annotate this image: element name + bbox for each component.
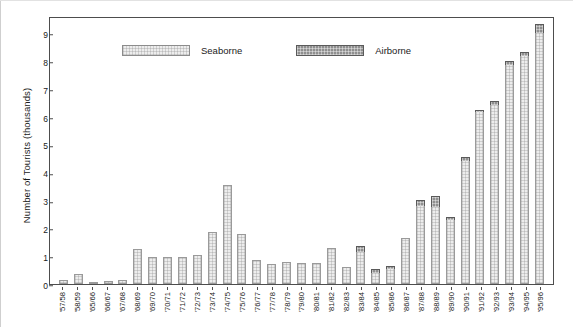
seaborne-segment bbox=[312, 263, 321, 284]
bar-slot bbox=[309, 18, 324, 284]
seaborne-segment bbox=[386, 269, 395, 284]
bar--69-70[interactable] bbox=[148, 257, 157, 284]
airborne-segment bbox=[535, 24, 544, 32]
bar--80-81[interactable] bbox=[312, 263, 321, 284]
bar-slot bbox=[175, 18, 190, 284]
y-tick-4: 4 bbox=[24, 170, 48, 179]
x-tick-mark bbox=[511, 287, 512, 290]
x-tick-mark bbox=[436, 287, 437, 290]
seaborne-segment bbox=[297, 263, 306, 284]
x-tick-label: '72/73 bbox=[192, 292, 201, 312]
bar--89-90[interactable] bbox=[446, 217, 455, 284]
bar--57-58[interactable] bbox=[59, 280, 68, 284]
bar--76-77[interactable] bbox=[252, 260, 261, 284]
bar-slot bbox=[517, 18, 532, 284]
x-tick-label: '88/89 bbox=[431, 292, 440, 312]
x-label-slot: '95/96 bbox=[533, 287, 548, 327]
bar--88-89[interactable] bbox=[431, 196, 440, 284]
bar--78-79[interactable] bbox=[282, 262, 291, 284]
bar--79-80[interactable] bbox=[297, 263, 306, 284]
bar--75-76[interactable] bbox=[237, 234, 246, 284]
bar--84-85[interactable] bbox=[371, 269, 380, 284]
x-tick-label: '79/80 bbox=[297, 292, 306, 312]
x-tick-mark bbox=[540, 287, 541, 290]
x-label-slot: '58/59 bbox=[70, 287, 85, 327]
bar-slot bbox=[220, 18, 235, 284]
bar-slot bbox=[56, 18, 71, 284]
x-tick-label: '69/70 bbox=[148, 292, 157, 312]
bar--70-71[interactable] bbox=[163, 257, 172, 284]
seaborne-segment bbox=[193, 255, 202, 284]
bar--95-96[interactable] bbox=[535, 24, 544, 284]
bar--71-72[interactable] bbox=[178, 257, 187, 284]
x-tick-label: '66/67 bbox=[103, 292, 112, 312]
x-tick-mark bbox=[167, 287, 168, 290]
bar--82-83[interactable] bbox=[342, 267, 351, 284]
bar--67-68[interactable] bbox=[118, 280, 127, 284]
bar--90-91[interactable] bbox=[461, 157, 470, 284]
bar--93-94[interactable] bbox=[505, 61, 514, 284]
x-label-slot: '74/75 bbox=[219, 287, 234, 327]
bar-slot bbox=[428, 18, 443, 284]
bar--68-69[interactable] bbox=[133, 249, 142, 284]
seaborne-segment bbox=[163, 257, 172, 284]
bar--66-67[interactable] bbox=[104, 281, 113, 284]
bar--77-78[interactable] bbox=[267, 264, 276, 284]
x-tick-label: '87/88 bbox=[416, 292, 425, 312]
x-label-slot: '79/80 bbox=[294, 287, 309, 327]
bar-slot bbox=[116, 18, 131, 284]
bar--85-86[interactable] bbox=[386, 266, 395, 284]
bar-slot bbox=[249, 18, 264, 284]
x-tick-label: '74/75 bbox=[222, 292, 231, 312]
seaborne-segment bbox=[223, 185, 232, 284]
bar--65-66[interactable] bbox=[89, 282, 98, 284]
bar-slot bbox=[235, 18, 250, 284]
x-label-slot: '69/70 bbox=[145, 287, 160, 327]
bar--74-75[interactable] bbox=[223, 185, 232, 284]
seaborne-segment bbox=[59, 280, 68, 284]
x-label-slot: '88/89 bbox=[428, 287, 443, 327]
seaborne-segment bbox=[475, 112, 484, 284]
x-tick-mark bbox=[301, 287, 302, 290]
bar--58-59[interactable] bbox=[74, 274, 83, 284]
x-tick-mark bbox=[92, 287, 93, 290]
seaborne-segment bbox=[104, 281, 113, 284]
bar--83-84[interactable] bbox=[356, 246, 365, 284]
x-label-slot: '84/85 bbox=[369, 287, 384, 327]
x-tick-mark bbox=[152, 287, 153, 290]
bar--86-87[interactable] bbox=[401, 238, 410, 284]
x-tick-mark bbox=[481, 287, 482, 290]
bar--94-95[interactable] bbox=[520, 52, 529, 284]
x-tick-label: '95/96 bbox=[536, 292, 545, 312]
seaborne-segment bbox=[461, 161, 470, 284]
x-tick-mark bbox=[451, 287, 452, 290]
x-label-slot: '92/93 bbox=[488, 287, 503, 327]
seaborne-segment bbox=[535, 33, 544, 284]
bar--91-92[interactable] bbox=[475, 110, 484, 284]
x-tick-mark bbox=[331, 287, 332, 290]
x-tick-label: '86/87 bbox=[402, 292, 411, 312]
seaborne-segment bbox=[505, 65, 514, 284]
bar--81-82[interactable] bbox=[327, 248, 336, 284]
bar-slot bbox=[383, 18, 398, 284]
seaborne-segment bbox=[148, 257, 157, 284]
seaborne-segment bbox=[416, 206, 425, 284]
x-tick-label: '85/86 bbox=[387, 292, 396, 312]
y-tick-2: 2 bbox=[24, 226, 48, 235]
x-tick-mark bbox=[227, 287, 228, 290]
bar--73-74[interactable] bbox=[208, 232, 217, 284]
x-tick-mark bbox=[77, 287, 78, 290]
chart-legend: Seaborne Airborne bbox=[122, 45, 411, 56]
x-tick-label: '91/92 bbox=[476, 292, 485, 312]
x-tick-label: '89/90 bbox=[446, 292, 455, 312]
seaborne-segment bbox=[178, 257, 187, 284]
bar--72-73[interactable] bbox=[193, 255, 202, 284]
bar--87-88[interactable] bbox=[416, 200, 425, 284]
bar--92-93[interactable] bbox=[490, 101, 499, 284]
x-tick-mark bbox=[272, 287, 273, 290]
seaborne-segment bbox=[401, 238, 410, 284]
x-label-slot: '87/88 bbox=[414, 287, 429, 327]
seaborne-segment bbox=[74, 274, 83, 284]
tourist-arrivals-bar-chart: Number of Tourists (thousands) 012345678… bbox=[0, 0, 573, 327]
x-label-slot: '65/66 bbox=[85, 287, 100, 327]
